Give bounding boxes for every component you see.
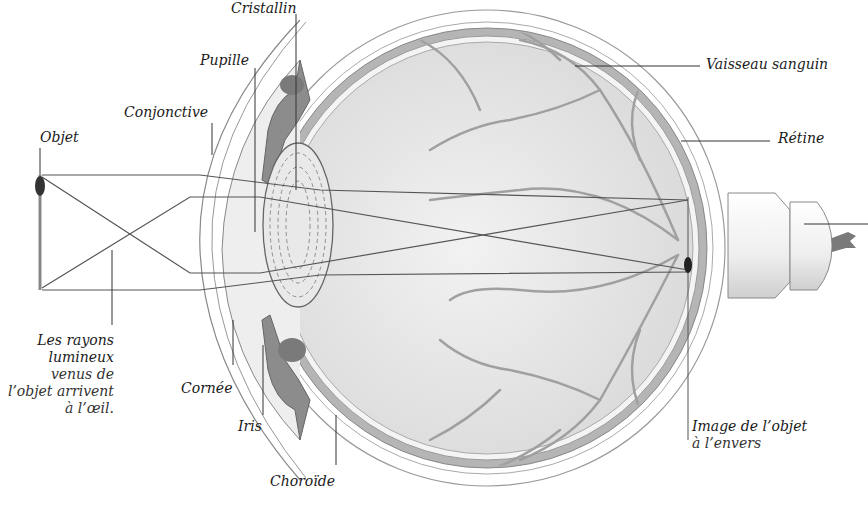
lens xyxy=(263,143,333,307)
label-iris: Iris xyxy=(238,418,262,435)
label-image-objet: Image de l’objet à l’envers xyxy=(692,418,807,452)
label-vaisseau-sanguin: Vaisseau sanguin xyxy=(706,56,828,73)
label-choroide: Choroïde xyxy=(270,473,335,490)
label-rays: Les rayons lumineux venus de l’objet arr… xyxy=(0,332,114,417)
label-conjonctive: Conjonctive xyxy=(124,104,208,121)
rays-line-1: Les rayons xyxy=(0,332,114,349)
rays-line-2: lumineux xyxy=(0,349,114,366)
label-cristallin: Cristallin xyxy=(231,0,297,17)
label-pupille: Pupille xyxy=(200,52,249,69)
optic-nerve xyxy=(728,193,856,298)
rays-line-4: l’objet arrivent xyxy=(0,383,114,400)
label-objet: Objet xyxy=(40,129,79,146)
image-line-2: à l’envers xyxy=(692,435,807,452)
rays-line-3: venus de xyxy=(0,366,114,383)
label-cornee: Cornée xyxy=(181,380,232,397)
label-retine: Rétine xyxy=(778,130,824,147)
image-line-1: Image de l’objet xyxy=(692,418,807,435)
rays-line-5: à l’œil. xyxy=(0,400,114,417)
